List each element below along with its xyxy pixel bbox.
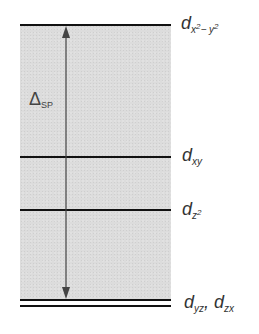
label-dx2y2: dx2− y2 (181, 14, 219, 36)
label-sub: yz (194, 303, 204, 314)
label-sup: 2 (197, 208, 201, 217)
label-sub: zx (224, 303, 234, 314)
label-sub-mid: − y (200, 24, 214, 35)
label-dz2: dz2 (182, 200, 201, 222)
label-sup: 2 (214, 22, 218, 31)
label-base: d (182, 199, 192, 219)
label-sup: 2 (196, 22, 200, 31)
label-base: d (182, 145, 192, 165)
delta-subscript: SP (41, 100, 53, 110)
label-dxy: dxy (182, 146, 202, 167)
label-base: d (181, 13, 191, 33)
orbital-splitting-diagram: ΔSP dx2− y2 dxy dz2 dyz, dzx (0, 0, 259, 334)
label-separator: , (204, 292, 209, 312)
label-dyz-dzx: dyz, dzx (184, 293, 234, 314)
label-base: d (184, 292, 194, 312)
splitting-double-arrow (0, 0, 259, 334)
delta-symbol: Δ (29, 89, 41, 109)
label-sub: xy (192, 156, 202, 167)
label-base: d (214, 292, 224, 312)
splitting-energy-label: ΔSP (29, 90, 53, 111)
